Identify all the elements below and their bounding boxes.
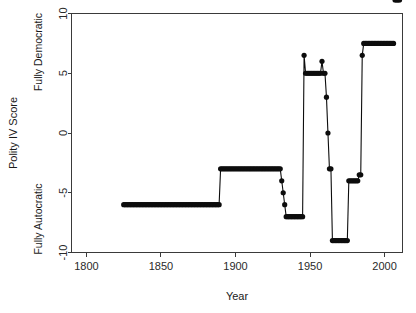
y-tick-label: 10 xyxy=(57,7,69,19)
chart-background xyxy=(0,0,416,313)
data-point xyxy=(360,53,365,58)
x-tick-label: 2000 xyxy=(372,260,396,272)
y-tick-label: 0 xyxy=(57,130,69,136)
x-tick-label: 1850 xyxy=(149,260,173,272)
y-tick-label: -5 xyxy=(57,188,69,198)
polity-score-chart-figure: -10-50510 18001850190019502000 Year Poli… xyxy=(0,0,416,313)
data-point xyxy=(355,178,360,183)
data-point xyxy=(301,53,306,58)
data-point xyxy=(358,172,363,177)
y-axis-title: Polity IV Score xyxy=(7,97,19,169)
y-axis-bottom-annotation: Fully Autocratic xyxy=(32,183,44,254)
x-tick-label: 1800 xyxy=(74,260,98,272)
chart-canvas: -10-50510 18001850190019502000 Year Poli… xyxy=(0,0,416,313)
y-tick-label: 5 xyxy=(57,70,69,76)
data-point xyxy=(324,95,329,100)
data-point xyxy=(300,214,305,219)
x-tick-label: 1900 xyxy=(223,260,247,272)
data-point xyxy=(279,178,284,183)
data-point xyxy=(319,59,324,64)
data-point xyxy=(281,190,286,195)
data-point xyxy=(278,166,283,171)
x-tick-label: 1950 xyxy=(298,260,322,272)
x-axis-title: Year xyxy=(226,290,249,302)
data-point xyxy=(217,202,222,207)
data-point xyxy=(282,202,287,207)
data-point xyxy=(322,71,327,76)
y-tick-label: -10 xyxy=(57,245,69,261)
y-axis-top-annotation: Fully Democratic xyxy=(32,13,44,91)
data-point xyxy=(328,166,333,171)
data-point xyxy=(325,130,330,135)
data-point xyxy=(391,41,396,46)
data-point xyxy=(345,238,350,243)
